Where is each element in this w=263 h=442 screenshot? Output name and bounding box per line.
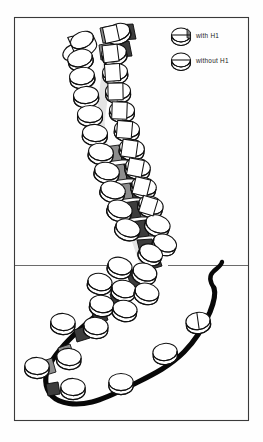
nucleosome-disc [78,105,103,126]
legend-label-with-h1: with H1 [195,32,219,39]
legend-label-without-h1: without H1 [195,57,229,64]
nucleosome-disc-plain-icon [172,53,191,71]
chromatin-fiber-figure: with H1 without H1 [0,0,263,442]
nucleosome-disc [61,378,86,400]
nucleosome-disc [24,357,49,379]
figure-root: with H1 without H1 [0,0,263,442]
nucleosome-disc [56,348,82,371]
nucleosome-disc [109,373,133,394]
nucleosome-disc [82,124,108,147]
nucleosome-disc-shaded-icon [172,28,191,46]
nucleosome-disc [73,86,99,109]
nucleosome-disc [50,313,76,336]
